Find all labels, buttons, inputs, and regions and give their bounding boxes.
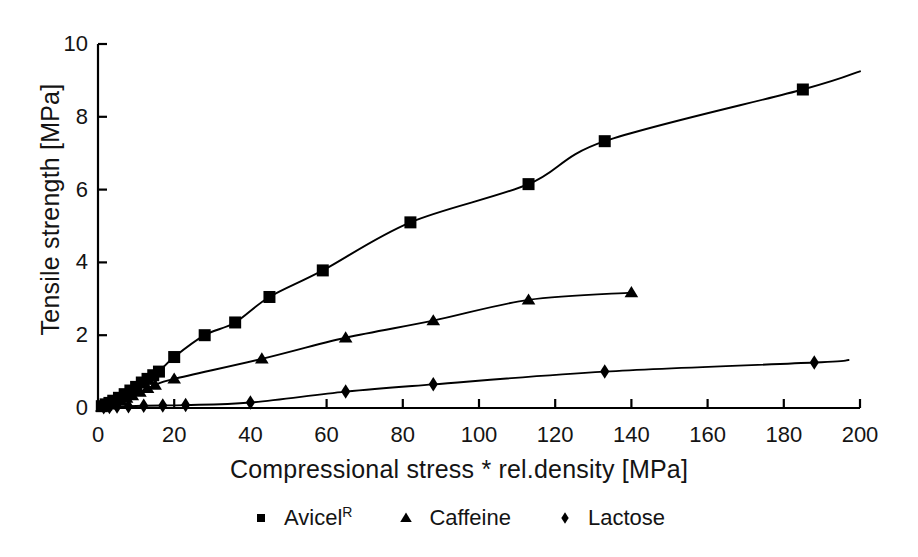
data-point-square — [797, 84, 809, 96]
y-tick-label: 0 — [42, 395, 88, 421]
legend-marker-diamond-icon — [557, 510, 573, 526]
series-lactose — [98, 355, 849, 414]
data-point-diamond — [341, 384, 350, 399]
data-point-square — [168, 351, 180, 363]
x-tick-label: 180 — [765, 422, 802, 448]
y-tick-label: 10 — [42, 31, 88, 57]
legend-label-superscript: R — [342, 504, 352, 520]
legend-label: Lactose — [588, 505, 665, 531]
data-point-diamond — [139, 399, 148, 414]
x-tick-label: 100 — [461, 422, 498, 448]
series-avicel — [96, 71, 860, 412]
y-tick-label: 2 — [42, 322, 88, 348]
data-point-square — [523, 178, 535, 190]
data-point-square — [263, 291, 275, 303]
x-tick-label: 120 — [537, 422, 574, 448]
x-tick-label: 40 — [238, 422, 262, 448]
data-point-square — [153, 366, 165, 378]
legend-marker-square-icon — [253, 510, 269, 526]
data-point-square — [199, 329, 211, 341]
chart-legend: AvicelRCaffeineLactose — [0, 505, 918, 531]
series-caffeine — [95, 286, 638, 411]
legend-entry-caffeine[interactable]: Caffeine — [398, 505, 511, 531]
chart-figure: Tensile strength [MPa] 02040608010012014… — [0, 0, 918, 557]
x-tick-label: 200 — [842, 422, 879, 448]
x-tick-label: 20 — [162, 422, 186, 448]
x-tick-label: 140 — [613, 422, 650, 448]
y-tick-label: 4 — [42, 249, 88, 275]
data-point-square — [317, 264, 329, 276]
legend-label: AvicelR — [284, 505, 352, 531]
data-point-square — [229, 316, 241, 328]
legend-marker-triangle-icon — [398, 510, 414, 526]
data-point-square — [599, 135, 611, 147]
data-point-diamond — [158, 398, 167, 413]
x-tick-label: 80 — [391, 422, 415, 448]
data-point-diamond — [600, 364, 609, 379]
data-point-triangle — [625, 286, 639, 297]
y-tick-label: 6 — [42, 177, 88, 203]
data-point-square — [404, 216, 416, 228]
x-axis-title: Compressional stress * rel.density [MPa] — [0, 455, 918, 484]
legend-entry-lactose[interactable]: Lactose — [557, 505, 665, 531]
data-point-diamond — [810, 355, 819, 370]
x-tick-label: 0 — [92, 422, 104, 448]
axis-lines — [98, 44, 860, 408]
data-point-diamond — [429, 377, 438, 392]
x-tick-label: 60 — [314, 422, 338, 448]
legend-label: Caffeine — [429, 505, 511, 531]
y-tick-label: 8 — [42, 104, 88, 130]
x-tick-label: 160 — [689, 422, 726, 448]
data-series-layer — [95, 71, 860, 414]
legend-entry-avicel[interactable]: AvicelR — [253, 505, 352, 531]
data-point-diamond — [181, 398, 190, 413]
